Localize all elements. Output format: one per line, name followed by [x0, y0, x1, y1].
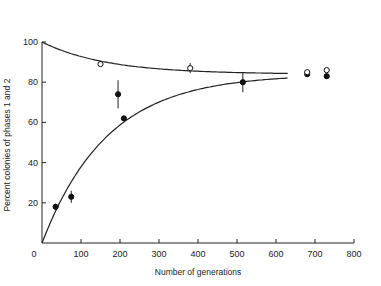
x-tick-label: 0	[31, 249, 36, 259]
x-tick-label: 300	[151, 249, 166, 259]
y-tick-label: 20	[28, 198, 38, 208]
open-data-point	[98, 62, 103, 67]
open-data-point	[324, 68, 329, 73]
y-tick-label: 60	[28, 117, 38, 127]
open-data-point	[305, 70, 310, 75]
filled-data-point	[240, 80, 245, 85]
filled-data-point	[324, 74, 329, 79]
x-tick-label: 200	[112, 249, 127, 259]
x-axis-title: Number of generations	[155, 267, 241, 277]
y-tick-label: 40	[28, 158, 38, 168]
fitted-curve	[42, 42, 288, 73]
y-axis-title: Percent colonies of phases 1 and 2	[2, 78, 12, 211]
x-tick-label: 400	[190, 249, 205, 259]
data-points	[53, 62, 329, 210]
filled-data-point	[115, 92, 120, 97]
fitted-curve	[42, 78, 288, 243]
filled-data-point	[69, 194, 74, 199]
open-data-point	[188, 66, 193, 71]
x-tick-label: 600	[268, 249, 283, 259]
y-tick-label: 80	[28, 77, 38, 87]
filled-data-point	[121, 116, 126, 121]
fitted-curves	[42, 42, 288, 243]
chart: 010020030040050060070080020406080100 Num…	[0, 0, 381, 286]
y-tick-label: 100	[23, 37, 38, 47]
x-tick-label: 500	[229, 249, 244, 259]
x-tick-label: 100	[73, 249, 88, 259]
x-tick-label: 700	[307, 249, 322, 259]
x-tick-label: 800	[346, 249, 361, 259]
filled-data-point	[53, 204, 58, 209]
